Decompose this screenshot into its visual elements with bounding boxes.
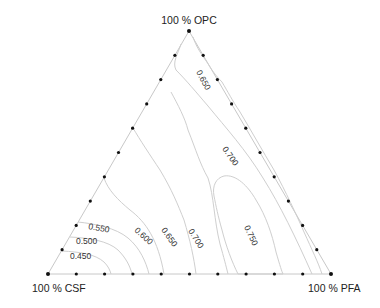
tick-dot [187,29,191,33]
tick-dot [173,54,176,57]
tick-dot [103,175,106,178]
tick-dot [315,248,318,251]
tick-dot [46,272,50,276]
tick-dot [202,54,205,57]
vertex-label-csf: 100 % CSF [32,282,86,294]
contour-label-0500: 0.500 [76,236,98,246]
contour-0600 [104,178,164,274]
tick-dot [75,272,78,275]
tick-dot [216,272,219,275]
vertex-label-opc: 100 % OPC [161,14,217,26]
tick-dot [103,272,106,275]
contour-label-0550: 0.550 [88,221,111,235]
tick-dot [216,78,219,81]
contour-label-0750: 0.750 [242,224,260,248]
contour-label-0600: 0.600 [133,225,156,247]
tick-dot [160,272,163,275]
tick-dot [301,224,304,227]
tick-dot [61,248,64,251]
tick-dot [273,175,276,178]
contour-label-0650-top: 0.650 [194,68,213,92]
tick-dot [244,127,247,130]
tick-dot [329,272,333,276]
tick-dot [188,272,191,275]
vertex-label-pfa: 100 % PFA [308,282,361,294]
contour-label-0450: 0.450 [70,251,92,261]
tick-dot [75,224,78,227]
contour-0650-lower [133,128,196,274]
tick-dot [287,200,290,203]
contour-label-0700-center: 0.700 [220,144,241,167]
contour-label-0650-bottom: 0.650 [159,225,180,248]
ternary-plot-svg: 100 % OPC 100 % CSF 100 % PFA 0.450 0.50… [0,0,380,308]
tick-dot [89,200,92,203]
tick-dot [258,151,261,154]
tick-dot [131,127,134,130]
tick-dot [245,272,248,275]
tick-dot [273,272,276,275]
ternary-chart: 100 % OPC 100 % CSF 100 % PFA 0.450 0.50… [0,0,380,308]
tick-dot [117,151,120,154]
tick-dot [230,102,233,105]
tick-dot [145,102,148,105]
tick-dot [159,78,162,81]
tick-dot [301,272,304,275]
tick-dot [131,272,134,275]
